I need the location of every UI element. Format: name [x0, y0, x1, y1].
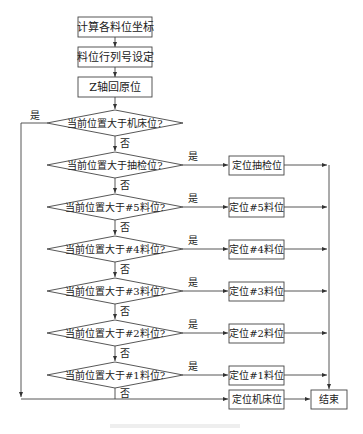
no-label: 否 — [120, 388, 130, 399]
no-label: 否 — [120, 306, 130, 317]
no-label: 否 — [120, 264, 130, 275]
yes-label: 是 — [188, 193, 198, 204]
action-label: 定位抽检位 — [232, 159, 282, 171]
flowchart-canvas: 计算各料位坐标 料位行列号设定 Z轴回原位 当前位置大于机床位? 当前位置大于抽… — [0, 0, 363, 434]
decision-label: 当前位置大于机床位? — [67, 117, 162, 129]
action-label: 定位#1料位 — [229, 369, 284, 381]
decision-label: 当前位置大于#2料位? — [65, 327, 165, 339]
yes-label: 是 — [188, 361, 198, 372]
process-label: 料位行列号设定 — [77, 50, 154, 64]
no-label: 否 — [120, 138, 130, 149]
no-label: 否 — [120, 222, 130, 233]
yes-label: 是 — [188, 277, 198, 288]
action-label: 定位#3料位 — [229, 285, 284, 297]
action-label: 定位#4料位 — [229, 243, 284, 255]
process-label: Z轴回原位 — [89, 80, 141, 94]
decision-label: 当前位置大于#4料位? — [65, 243, 165, 255]
decision-label: 当前位置大于抽检位? — [67, 159, 162, 171]
action-label: 定位#2料位 — [229, 327, 284, 339]
yes-label: 是 — [188, 235, 198, 246]
yes-label: 是 — [188, 151, 198, 162]
yes-label: 是 — [30, 110, 40, 121]
process-label: 计算各料位坐标 — [77, 20, 154, 34]
no-label: 否 — [120, 180, 130, 191]
yes-label: 是 — [188, 319, 198, 330]
final-action-label: 定位机床位 — [232, 393, 282, 405]
no-label: 否 — [120, 348, 130, 359]
end-label: 结束 — [319, 393, 339, 405]
decision-label: 当前位置大于#1料位? — [65, 369, 165, 381]
decision-label: 当前位置大于#5料位? — [65, 201, 165, 213]
action-label: 定位#5料位 — [229, 201, 284, 213]
decision-label: 当前位置大于#3料位? — [65, 285, 165, 297]
